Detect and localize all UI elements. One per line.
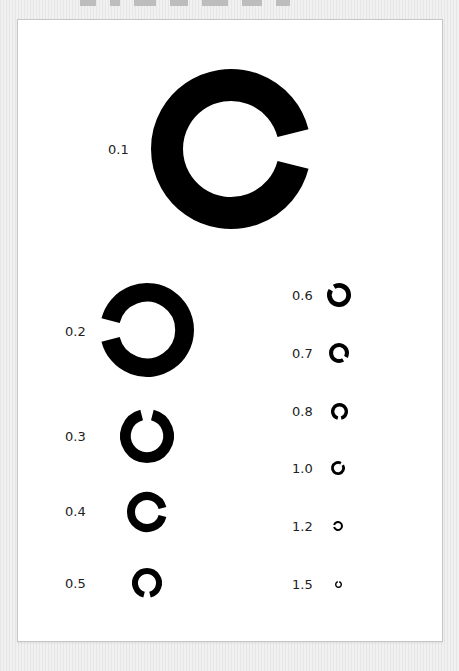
acuity-label: 1.0 — [292, 461, 313, 477]
acuity-label: 0.2 — [65, 324, 86, 340]
landolt-c-icon — [120, 409, 174, 463]
acuity-label: 0.8 — [292, 404, 313, 420]
acuity-label: 0.6 — [292, 288, 313, 304]
acuity-label: 0.5 — [65, 576, 86, 592]
acuity-label: 0.4 — [65, 504, 86, 520]
landolt-c-icon — [331, 461, 345, 475]
landolt-c-icon — [333, 521, 343, 531]
landolt-c-icon — [100, 283, 194, 377]
acuity-label: 1.2 — [292, 519, 313, 535]
page-heading-clipped — [80, 0, 340, 6]
landolt-c-icon — [327, 283, 351, 307]
landolt-c-icon — [329, 343, 349, 363]
landolt-c-icon — [331, 403, 348, 420]
acuity-label: 1.5 — [292, 577, 313, 593]
landolt-c-icon — [151, 69, 311, 229]
acuity-label: 0.1 — [108, 142, 129, 158]
acuity-label: 0.3 — [65, 429, 86, 445]
acuity-label: 0.7 — [292, 346, 313, 362]
landolt-c-icon — [127, 492, 167, 532]
landolt-c-icon — [335, 581, 342, 588]
landolt-c-icon — [132, 568, 162, 598]
